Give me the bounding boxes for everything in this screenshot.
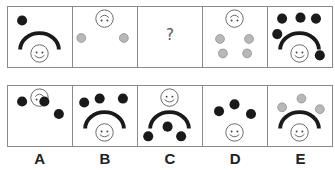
black-dot (246, 109, 256, 119)
black-dot (118, 94, 128, 104)
question-cell-missing: ? (138, 7, 203, 67)
black-dot (79, 97, 89, 107)
question-cell-2 (73, 7, 138, 67)
figure-q1 (8, 7, 72, 67)
option-label-d[interactable]: D (203, 150, 268, 167)
question-cell-1 (8, 7, 73, 67)
black-dot (39, 96, 49, 106)
option-e[interactable] (268, 86, 332, 146)
gray-dot (278, 103, 287, 112)
smiley-face-icon (161, 89, 178, 106)
figure-q4 (203, 7, 267, 67)
gray-dot (243, 49, 252, 58)
smiley-face-icon (31, 45, 48, 62)
option-label-b[interactable]: B (72, 150, 137, 167)
black-dot (17, 16, 27, 26)
options-row (7, 85, 333, 147)
black-dot (229, 99, 239, 109)
option-label-e[interactable]: E (268, 150, 333, 167)
figure-option-c (138, 86, 202, 146)
black-dot (277, 14, 287, 24)
black-dot (315, 50, 325, 60)
gray-dot (297, 94, 306, 103)
smiley-face-icon (96, 124, 113, 141)
black-dot (295, 13, 305, 23)
black-dot (143, 131, 153, 141)
option-c[interactable] (138, 86, 203, 146)
gray-dot (218, 49, 227, 58)
option-labels: A B C D E (7, 150, 333, 167)
gray-dot (77, 34, 86, 43)
smiley-face-icon (291, 124, 308, 141)
question-cell-4 (203, 7, 268, 67)
option-label-c[interactable]: C (137, 150, 202, 167)
smiley-face-icon (291, 45, 308, 62)
black-dot (17, 96, 27, 106)
black-dot (214, 106, 224, 116)
black-dot (272, 29, 282, 39)
gray-dot (119, 34, 128, 43)
option-a[interactable] (8, 86, 73, 146)
question-mark: ? (138, 26, 202, 44)
figure-option-e (268, 86, 332, 146)
option-b[interactable] (73, 86, 138, 146)
figure-option-a (8, 86, 72, 146)
figure-q2 (73, 7, 137, 67)
smiley-face-icon (226, 124, 243, 141)
question-cell-5 (268, 7, 332, 67)
frown-face-icon (96, 10, 113, 27)
figure-option-b (73, 86, 137, 146)
option-d[interactable] (203, 86, 268, 146)
black-dot (176, 131, 186, 141)
black-dot (311, 14, 321, 24)
black-dot (95, 94, 105, 104)
gray-dot (216, 34, 225, 43)
black-dot (163, 122, 173, 132)
option-label-a[interactable]: A (7, 150, 72, 167)
black-dot (54, 109, 64, 119)
question-row: ? (7, 6, 333, 68)
figure-q5 (268, 7, 332, 67)
frown-face-icon (226, 10, 243, 27)
gray-dot (245, 34, 254, 43)
figure-option-d (203, 86, 267, 146)
gray-dot (315, 105, 324, 114)
